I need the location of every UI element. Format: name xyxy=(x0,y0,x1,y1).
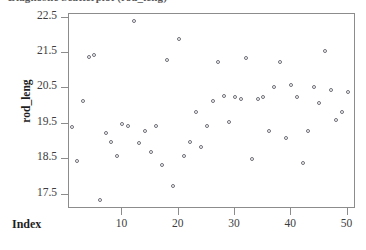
data-point xyxy=(188,140,192,144)
scatterplot-figure: Diagnostic Scatterplot (rod_leng) rod_le… xyxy=(0,0,366,250)
data-point xyxy=(115,154,119,158)
data-point xyxy=(261,95,265,99)
data-point xyxy=(154,124,158,128)
x-axis-title: Index xyxy=(12,217,41,232)
data-point xyxy=(278,60,282,64)
data-point xyxy=(87,55,91,59)
data-point xyxy=(227,120,231,124)
y-axis-tick-label: 19.5 xyxy=(37,115,57,127)
y-axis-tick xyxy=(61,52,68,53)
data-point xyxy=(306,129,310,133)
data-point xyxy=(216,60,220,64)
data-point xyxy=(165,58,169,62)
y-axis-tick xyxy=(61,17,68,18)
data-point xyxy=(317,101,321,105)
x-axis-tick-label: 20 xyxy=(158,217,198,229)
y-axis-tick xyxy=(61,194,68,195)
data-point xyxy=(109,140,113,144)
data-point xyxy=(171,184,175,188)
y-axis-tick xyxy=(61,158,68,159)
data-point xyxy=(211,99,215,103)
x-axis-tick xyxy=(347,208,348,215)
y-axis-title: rod_leng xyxy=(20,71,32,131)
data-point xyxy=(70,125,74,129)
data-point xyxy=(199,145,203,149)
data-point xyxy=(98,198,102,202)
data-point xyxy=(239,97,243,101)
data-point xyxy=(143,129,147,133)
data-point xyxy=(256,97,260,101)
data-point xyxy=(81,99,85,103)
data-point xyxy=(137,141,141,145)
x-axis-tick-label: 30 xyxy=(214,217,254,229)
y-axis-tick-label: 22.5 xyxy=(37,9,57,21)
data-point xyxy=(289,83,293,87)
x-axis-tick-label: 10 xyxy=(101,217,141,229)
data-points-layer xyxy=(69,14,354,207)
data-point xyxy=(250,157,254,161)
data-point xyxy=(205,124,209,128)
data-point xyxy=(160,163,164,167)
x-axis-tick xyxy=(234,208,235,215)
x-axis-tick-label: 40 xyxy=(270,217,310,229)
data-point xyxy=(92,53,96,57)
data-point xyxy=(312,85,316,89)
data-point xyxy=(267,129,271,133)
y-axis-tick-label: 17.5 xyxy=(37,186,57,198)
data-point xyxy=(334,118,338,122)
data-point xyxy=(182,154,186,158)
x-axis-tick-label: 50 xyxy=(327,217,366,229)
data-point xyxy=(346,90,350,94)
x-axis-tick xyxy=(121,208,122,215)
data-point xyxy=(120,122,124,126)
data-point xyxy=(75,159,79,163)
data-point xyxy=(104,131,108,135)
data-point xyxy=(132,19,136,23)
data-point xyxy=(233,95,237,99)
y-axis-tick-label: 20.5 xyxy=(37,79,57,91)
x-axis-tick xyxy=(178,208,179,215)
data-point xyxy=(272,85,276,89)
plot-area xyxy=(68,13,355,208)
data-point xyxy=(149,150,153,154)
data-point xyxy=(295,95,299,99)
data-point xyxy=(284,136,288,140)
data-point xyxy=(194,110,198,114)
data-point xyxy=(323,49,327,53)
y-axis-tick xyxy=(61,123,68,124)
y-axis-tick xyxy=(61,87,68,88)
x-axis-tick xyxy=(290,208,291,215)
data-point xyxy=(126,124,130,128)
figure-title: Diagnostic Scatterplot (rod_leng) xyxy=(8,0,167,3)
data-point xyxy=(329,88,333,92)
data-point xyxy=(301,161,305,165)
data-point xyxy=(222,94,226,98)
y-axis-tick-label: 21.5 xyxy=(37,44,57,56)
data-point xyxy=(340,110,344,114)
y-axis-tick-label: 18.5 xyxy=(37,150,57,162)
data-point xyxy=(244,56,248,60)
data-point xyxy=(177,37,181,41)
